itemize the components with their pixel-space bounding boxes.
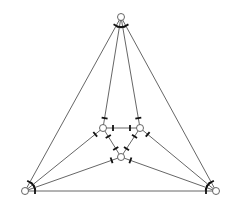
edge-layer xyxy=(25,17,216,191)
node-top xyxy=(118,14,125,21)
edge-end-tick xyxy=(111,158,113,164)
edge-end-tick xyxy=(113,147,118,150)
edge-end-tick xyxy=(114,24,119,27)
node-inner-left xyxy=(100,125,107,132)
edge-inner-right-inner-bottom xyxy=(121,128,140,157)
edge-inner-left-outer-left xyxy=(25,128,103,191)
edge-end-tick xyxy=(132,135,137,138)
edge-end-tick xyxy=(123,24,128,27)
graph-diagram xyxy=(0,0,242,215)
edge-inner-left-inner-bottom xyxy=(103,128,121,157)
edge-end-tick xyxy=(124,147,129,150)
edge-top-outer-right xyxy=(121,17,216,191)
edge-inner-bottom-outer-right xyxy=(121,157,216,191)
node-outer-right xyxy=(213,188,220,195)
node-inner-right xyxy=(137,125,144,132)
edge-end-tick xyxy=(102,118,108,119)
node-outer-left xyxy=(22,188,29,195)
edge-end-tick xyxy=(106,135,111,138)
edge-end-tick xyxy=(129,158,131,164)
edge-inner-bottom-outer-left xyxy=(25,157,121,191)
edge-inner-right-outer-right xyxy=(140,128,216,191)
node-inner-bottom xyxy=(118,154,125,161)
node-layer xyxy=(22,14,220,195)
edge-end-tick xyxy=(135,118,141,119)
tick-layer xyxy=(27,24,214,194)
